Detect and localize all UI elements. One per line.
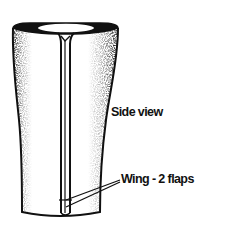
diagram-canvas: Side view Wing - 2 flaps	[0, 0, 231, 233]
wing-flaps-label: Wing - 2 flaps	[121, 172, 194, 186]
sleeve-top-rim	[13, 23, 118, 34]
side-view-label: Side view	[111, 105, 163, 119]
